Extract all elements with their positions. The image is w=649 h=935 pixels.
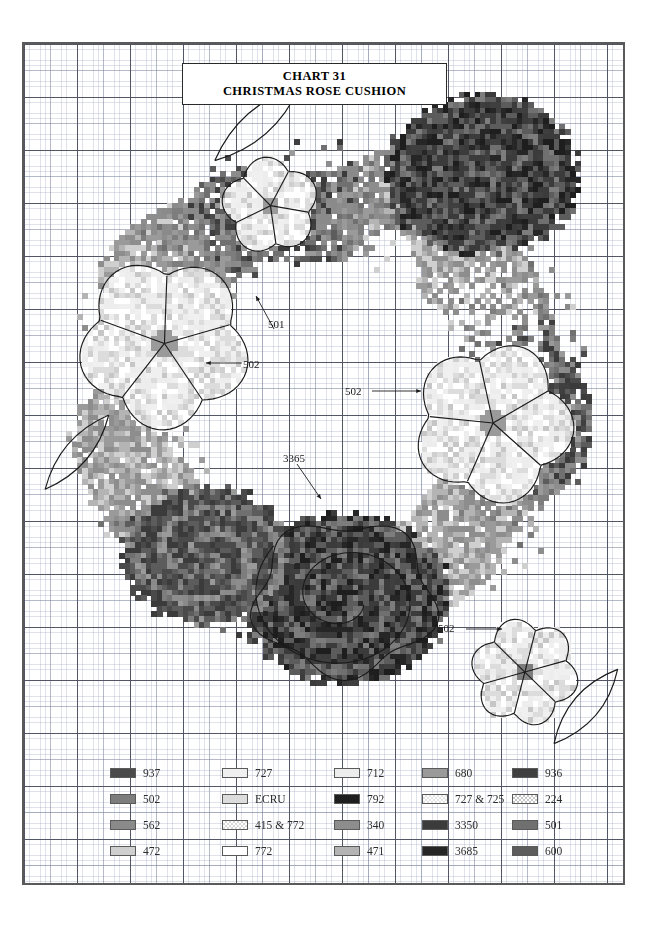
legend-swatch-936	[512, 768, 538, 778]
legend-swatch-472	[110, 846, 136, 856]
legend-code: 340	[367, 819, 384, 831]
legend-code: 727	[255, 767, 272, 779]
legend-code: 680	[455, 767, 472, 779]
legend-column-2: 727ECRU415 & 772772	[222, 760, 340, 864]
annotation-label-501-upper: 501	[268, 318, 285, 330]
annotation-label-502-right: 502	[345, 385, 362, 397]
legend-swatch-772	[222, 846, 248, 856]
legend-code: 772	[255, 845, 272, 857]
legend-code: 792	[367, 793, 384, 805]
legend-code: 415 & 772	[255, 819, 304, 831]
legend-item: 600	[512, 838, 630, 864]
legend-swatch-224	[512, 794, 538, 804]
chart-title-line-1: CHART 31	[283, 69, 346, 84]
legend-column-5: 936224501600	[512, 760, 630, 864]
legend-item: 936	[512, 760, 630, 786]
legend-code: 471	[367, 845, 384, 857]
legend-swatch-415-772	[222, 820, 248, 830]
legend-swatch-3350	[422, 820, 448, 830]
legend-code: 727 & 725	[455, 793, 504, 805]
legend-code: 562	[143, 819, 160, 831]
legend-item: 502	[110, 786, 228, 812]
legend-item: 501	[512, 812, 630, 838]
legend-swatch-792	[334, 794, 360, 804]
legend-code: 224	[545, 793, 562, 805]
legend-code: 600	[545, 845, 562, 857]
legend-swatch-937	[110, 768, 136, 778]
annotation-label-502-left: 502	[243, 358, 260, 370]
legend-swatch-562	[110, 820, 136, 830]
legend-swatch-ECRU	[222, 794, 248, 804]
legend-swatch-727-725	[422, 794, 448, 804]
legend-code: 472	[143, 845, 160, 857]
legend-item: 727	[222, 760, 340, 786]
legend-swatch-340	[334, 820, 360, 830]
chart-title-line-2: CHRISTMAS ROSE CUSHION	[223, 84, 406, 99]
legend-swatch-727	[222, 768, 248, 778]
legend-code: 3350	[455, 819, 478, 831]
legend-item: 937	[110, 760, 228, 786]
chart-title-box: CHART 31 CHRISTMAS ROSE CUSHION	[182, 63, 447, 105]
legend-swatch-712	[334, 768, 360, 778]
legend-swatch-502	[110, 794, 136, 804]
annotation-label-3365: 3365	[283, 452, 305, 464]
stitch-pattern-canvas	[24, 44, 625, 885]
legend-swatch-471	[334, 846, 360, 856]
annotation-label-502-lower: 502	[438, 622, 455, 634]
legend-item: 562	[110, 812, 228, 838]
legend-code: 936	[545, 767, 562, 779]
legend-code: ECRU	[255, 793, 286, 805]
legend-item: 772	[222, 838, 340, 864]
legend-code: 502	[143, 793, 160, 805]
legend-code: 3685	[455, 845, 478, 857]
legend-code: 501	[545, 819, 562, 831]
legend-swatch-600	[512, 846, 538, 856]
legend-item: 224	[512, 786, 630, 812]
thread-color-legend: 937502562472727ECRU415 & 772772712792340…	[22, 760, 625, 870]
legend-column-1: 937502562472	[110, 760, 228, 864]
legend-item: 415 & 772	[222, 812, 340, 838]
chart-grid-frame	[22, 42, 625, 885]
legend-swatch-680	[422, 768, 448, 778]
legend-code: 937	[143, 767, 160, 779]
legend-swatch-3685	[422, 846, 448, 856]
legend-swatch-501	[512, 820, 538, 830]
legend-item: ECRU	[222, 786, 340, 812]
legend-code: 712	[367, 767, 384, 779]
legend-item: 472	[110, 838, 228, 864]
